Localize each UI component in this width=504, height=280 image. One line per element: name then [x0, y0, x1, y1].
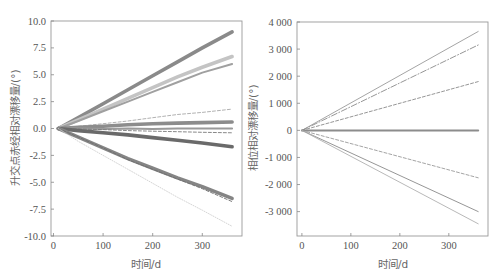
y-tick-label: 10.0 [28, 16, 46, 27]
x-tick-label: 100 [95, 240, 111, 251]
y-tick-label: -10.0 [24, 231, 46, 242]
series-line-p7 [302, 130, 478, 223]
x-tick-label: 200 [392, 240, 408, 251]
right-x-axis-title: 时间/d [378, 258, 408, 270]
series-line-s9 [58, 129, 232, 199]
x-tick-label: 200 [145, 240, 161, 251]
y-tick-label: -2.5 [29, 150, 46, 161]
series-line-p3 [302, 82, 478, 131]
x-tick-label: 300 [441, 240, 457, 251]
figure: 10.07.55.02.50.0-2.5-5.0-7.5-10.0 010020… [0, 0, 504, 280]
right-panel: 4 0003 0002 0001 0000-1 000-2 000-3 000 … [247, 17, 488, 271]
x-tick-label: 100 [343, 240, 359, 251]
y-tick-label: 4 000 [268, 17, 292, 28]
right-y-axis-title: 相位相对漂移量/(°) [247, 85, 259, 172]
x-tick-label: 0 [299, 240, 304, 251]
y-tick-label: 2.5 [33, 96, 46, 107]
series-line-s1 [58, 32, 232, 129]
y-tick-label: -5.0 [29, 177, 46, 188]
x-tick-label: 300 [194, 240, 210, 251]
left-panel: 10.07.55.02.50.0-2.5-5.0-7.5-10.0 010020… [9, 16, 242, 271]
y-tick-label: -2 000 [265, 179, 292, 190]
y-tick-label: 1 000 [268, 98, 292, 109]
right-series [302, 32, 478, 224]
x-tick-label: 0 [51, 240, 56, 251]
y-tick-label: 3 000 [268, 44, 292, 55]
series-line-p2 [302, 45, 478, 130]
y-tick-label: 7.5 [33, 42, 46, 53]
right-plot-frame [297, 22, 488, 236]
series-line-p1 [302, 32, 478, 131]
left-series [58, 32, 232, 227]
y-tick-label: 0.0 [33, 123, 46, 134]
y-tick-label: 2 000 [268, 71, 292, 82]
y-tick-label: -3 000 [265, 206, 292, 217]
left-y-ticks: 10.07.55.02.50.0-2.5-5.0-7.5-10.0 [24, 16, 54, 242]
y-tick-label: -7.5 [29, 204, 46, 215]
left-x-axis-title: 时间/d [131, 258, 161, 270]
y-tick-label: -1 000 [265, 152, 292, 163]
y-tick-label: 5.0 [33, 69, 46, 80]
right-y-ticks: 4 0003 0002 0001 0000-1 000-2 000-3 000 [265, 17, 300, 218]
left-y-axis-title: 升交点赤经相对漂移量/(°) [9, 70, 21, 187]
y-tick-label: 0 [287, 125, 292, 136]
